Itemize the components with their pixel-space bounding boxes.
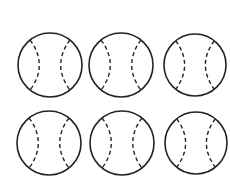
baseball-icon: [165, 112, 227, 174]
left-seam: [30, 40, 39, 90]
baseball-icon: [90, 111, 154, 175]
right-seam: [132, 40, 141, 90]
baseball-icon: [17, 111, 81, 175]
baseball-icon: [18, 33, 82, 97]
baseball-outline: [17, 111, 81, 175]
right-seam: [61, 40, 70, 90]
baseball-outline: [90, 111, 154, 175]
baseballs-figure: [0, 0, 230, 183]
baseball-outline: [89, 33, 153, 97]
right-seam: [60, 118, 69, 168]
left-seam: [176, 41, 185, 89]
right-seam: [206, 119, 215, 167]
baseball-icon: [164, 34, 226, 96]
right-seam: [205, 41, 214, 89]
left-seam: [101, 40, 110, 90]
baseball-outline: [18, 33, 82, 97]
baseball-icon: [89, 33, 153, 97]
baseball-outline: [164, 34, 226, 96]
right-seam: [133, 118, 142, 168]
left-seam: [102, 118, 111, 168]
baseball-outline: [165, 112, 227, 174]
left-seam: [177, 119, 186, 167]
left-seam: [29, 118, 38, 168]
